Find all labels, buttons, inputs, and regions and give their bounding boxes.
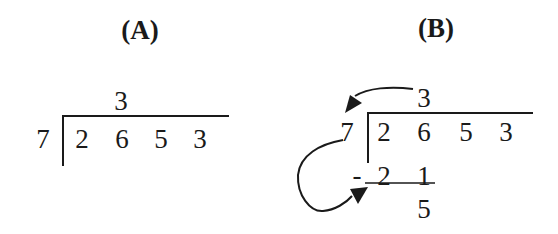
arrow-quotient-to-divisor-icon xyxy=(345,88,413,113)
panel-b-division-bracket xyxy=(367,113,533,163)
division-brackets-and-arrows xyxy=(0,0,558,234)
arrow-divisor-to-product-icon xyxy=(298,140,368,211)
panel-a-division-bracket xyxy=(62,116,229,166)
